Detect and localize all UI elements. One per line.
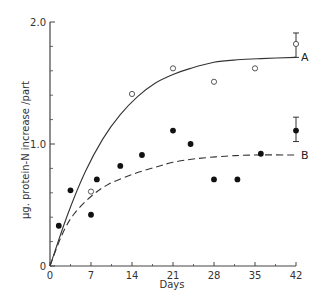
filled-circle-marker bbox=[293, 128, 299, 134]
open-circle-marker bbox=[252, 66, 257, 71]
series-label-a: A bbox=[301, 51, 309, 64]
fitted-curves bbox=[50, 57, 296, 266]
y-tick-label: 0 bbox=[40, 261, 46, 272]
filled-circle-marker bbox=[211, 176, 217, 182]
filled-circle-marker bbox=[188, 141, 194, 147]
open-circle-marker bbox=[293, 41, 298, 46]
open-circle-marker bbox=[129, 91, 134, 96]
x-tick-label: 14 bbox=[126, 270, 139, 281]
y-tick-label: 1.0 bbox=[30, 139, 46, 150]
filled-circle-marker bbox=[235, 176, 241, 182]
x-tick-label: 7 bbox=[88, 270, 94, 281]
error-bars bbox=[293, 33, 299, 142]
series-labels: AB bbox=[301, 51, 309, 162]
filled-circle-marker bbox=[88, 212, 94, 218]
x-tick-label: 28 bbox=[208, 270, 221, 281]
filled-circle-marker bbox=[258, 151, 264, 157]
y-axis-title: μg. protein-N increase /part bbox=[20, 81, 31, 219]
filled-circle-marker bbox=[170, 128, 176, 134]
open-circle-marker bbox=[211, 79, 216, 84]
series-label-b: B bbox=[301, 149, 309, 162]
open-circle-marker bbox=[88, 189, 93, 194]
data-markers bbox=[56, 41, 299, 228]
curve-b bbox=[50, 155, 296, 266]
curve-a bbox=[50, 57, 296, 266]
open-circle-marker bbox=[170, 66, 175, 71]
filled-circle-marker bbox=[68, 187, 74, 193]
filled-circle-marker bbox=[117, 163, 123, 169]
x-tick-label: 42 bbox=[290, 270, 303, 281]
filled-circle-marker bbox=[94, 176, 100, 182]
x-tick-label: 35 bbox=[249, 270, 262, 281]
filled-circle-marker bbox=[56, 223, 62, 229]
x-axis-title: Days bbox=[160, 279, 185, 290]
x-tick-label: 0 bbox=[47, 270, 53, 281]
chart: 07142128354201.02.0 AB Days μg. protein-… bbox=[0, 0, 328, 302]
filled-circle-marker bbox=[139, 152, 145, 158]
y-tick-label: 2.0 bbox=[30, 17, 46, 28]
axes: 07142128354201.02.0 bbox=[30, 17, 302, 281]
